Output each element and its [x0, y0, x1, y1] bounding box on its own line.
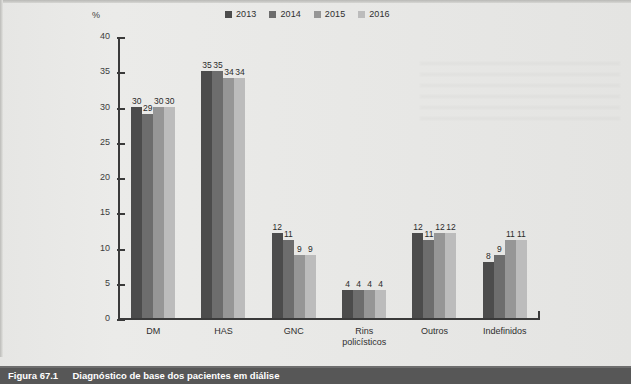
bar-value-label: 4: [345, 279, 350, 289]
bar[interactable]: 30: [153, 107, 164, 319]
bar-value-label: 4: [378, 279, 383, 289]
bar[interactable]: 9: [305, 255, 316, 318]
legend-item-2013[interactable]: 2013: [225, 9, 256, 19]
bar-value-label: 35: [202, 60, 211, 70]
legend-item-2014[interactable]: 2014: [269, 9, 300, 19]
y-axis-tick: 0: [117, 319, 125, 321]
bar[interactable]: 9: [494, 255, 505, 318]
bar-value-label: 12: [273, 222, 282, 232]
bar-set: 4444: [342, 38, 386, 318]
bar-value-label: 11: [284, 229, 293, 239]
bar-value-label: 8: [486, 251, 491, 261]
bar-chart: % 2013201420152016 0510152025303540 3029…: [0, 0, 631, 357]
legend-swatch-icon: [314, 11, 321, 18]
bar[interactable]: 29: [142, 114, 153, 318]
x-axis-category-label: Indefinidos: [483, 326, 527, 337]
bar-group-dm: 30293030DM: [118, 38, 188, 318]
x-axis-category-label: HAS: [214, 326, 233, 337]
legend-label: 2013: [236, 9, 256, 19]
bar-value-label: 35: [213, 60, 222, 70]
bar-value-label: 11: [506, 229, 515, 239]
bar-group-gnc: 121199GNC: [259, 38, 329, 318]
y-axis-tick-label: 35: [100, 66, 110, 76]
bar-value-label: 9: [497, 244, 502, 254]
bar-value-label: 30: [165, 96, 174, 106]
caption-band-highlight: [0, 366, 631, 368]
bar[interactable]: 34: [223, 78, 234, 318]
bar-value-label: 34: [224, 67, 233, 77]
bar[interactable]: 11: [516, 240, 527, 318]
bar[interactable]: 11: [423, 240, 434, 318]
y-axis-tick-label: 25: [100, 137, 110, 147]
bar-groups: 30293030DM35353434HAS121199GNC4444Rinspo…: [118, 38, 540, 318]
legend-item-2016[interactable]: 2016: [358, 9, 389, 19]
bar[interactable]: 11: [283, 240, 294, 318]
bar-value-label: 9: [297, 244, 302, 254]
bar[interactable]: 8: [483, 262, 494, 318]
legend-item-2015[interactable]: 2015: [314, 9, 345, 19]
bar-value-label: 4: [356, 279, 361, 289]
legend-label: 2015: [325, 9, 345, 19]
bar-value-label: 34: [235, 67, 244, 77]
legend-swatch-icon: [225, 11, 232, 18]
bar[interactable]: 12: [412, 233, 423, 318]
bar[interactable]: 9: [294, 255, 305, 318]
y-axis-tick-label: 0: [105, 313, 110, 323]
y-axis-tick-label: 20: [100, 172, 110, 182]
bar-set: 891111: [483, 38, 527, 318]
bar-group-rins: 4444Rinspolicísticos: [329, 38, 399, 318]
y-axis-tick-label: 30: [100, 102, 110, 112]
figure-caption-number: Figura 67.1: [8, 370, 58, 381]
x-axis-line: [118, 318, 540, 320]
x-axis-category-label: DM: [146, 326, 160, 337]
y-axis-tick-label: 10: [100, 243, 110, 253]
bar-set: 30293030: [131, 38, 175, 318]
bar[interactable]: 12: [272, 233, 283, 318]
bar-value-label: 30: [154, 96, 163, 106]
bar[interactable]: 11: [505, 240, 516, 318]
bar-value-label: 9: [308, 244, 313, 254]
bar-value-label: 11: [425, 229, 434, 239]
legend-label: 2016: [369, 9, 389, 19]
bar[interactable]: 35: [212, 71, 223, 318]
bar-set: 121199: [272, 38, 316, 318]
chart-legend: 2013201420152016: [225, 9, 390, 19]
bar-value-label: 11: [517, 229, 526, 239]
bar[interactable]: 4: [342, 290, 353, 318]
figure-caption-band: Figura 67.1 Diagnóstico de base dos paci…: [0, 366, 631, 384]
bar[interactable]: 4: [353, 290, 364, 318]
bar[interactable]: 12: [445, 233, 456, 318]
bar-value-label: 12: [413, 222, 422, 232]
plot-area: 0510152025303540 30293030DM35353434HAS12…: [118, 38, 540, 320]
bar-value-label: 12: [435, 222, 444, 232]
bar[interactable]: 4: [375, 290, 386, 318]
bar-value-label: 4: [367, 279, 372, 289]
y-axis-tick-label: 5: [105, 278, 110, 288]
bar[interactable]: 30: [164, 107, 175, 319]
y-axis-tick-label: 40: [100, 31, 110, 41]
figure-page: % 2013201420152016 0510152025303540 3029…: [0, 0, 631, 384]
bar-value-label: 29: [143, 103, 152, 113]
bar-group-outros: 12111212Outros: [399, 38, 469, 318]
x-axis-category-label: GNC: [284, 326, 304, 337]
x-axis-category-label: Rinspolicísticos: [342, 326, 386, 348]
y-axis-unit-label: %: [92, 10, 100, 20]
legend-swatch-icon: [358, 11, 365, 18]
legend-swatch-icon: [269, 11, 276, 18]
bar-set: 35353434: [201, 38, 245, 318]
legend-label: 2014: [280, 9, 300, 19]
bar-value-label: 12: [446, 222, 455, 232]
bar-set: 12111212: [412, 38, 456, 318]
bar[interactable]: 35: [201, 71, 212, 318]
bar-value-label: 30: [132, 96, 141, 106]
bar-group-indefinidos: 891111Indefinidos: [470, 38, 540, 318]
figure-caption: Figura 67.1 Diagnóstico de base dos paci…: [8, 370, 279, 381]
y-axis-tick-label: 15: [100, 207, 110, 217]
bar[interactable]: 4: [364, 290, 375, 318]
bar[interactable]: 30: [131, 107, 142, 319]
x-axis-category-label: Outros: [421, 326, 448, 337]
bar-group-has: 35353434HAS: [188, 38, 258, 318]
figure-caption-title: Diagnóstico de base dos pacientes em diá…: [72, 370, 279, 381]
bar[interactable]: 12: [434, 233, 445, 318]
bar[interactable]: 34: [234, 78, 245, 318]
